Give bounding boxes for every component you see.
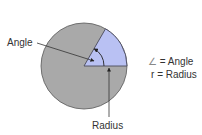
radius-label: Radius	[92, 120, 123, 131]
radius-symbol: r	[151, 69, 154, 80]
circle-diagram	[0, 0, 202, 135]
legend-angle: ∠ = Angle	[148, 56, 193, 67]
angle-symbol-icon: ∠	[148, 56, 157, 67]
angle-label: Angle	[7, 37, 33, 48]
legend-radius: r = Radius	[151, 69, 197, 80]
